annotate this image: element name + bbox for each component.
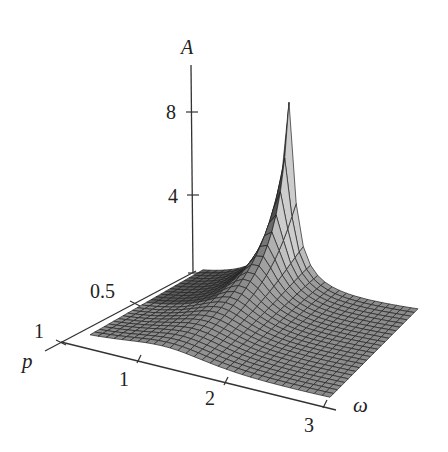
omega-tick-label-3: 3 xyxy=(304,414,314,436)
surface-mesh xyxy=(90,102,418,397)
omega-tick-label-1: 1 xyxy=(119,368,129,390)
p-tick-label-1: 1 xyxy=(34,320,44,342)
a-axis-line xyxy=(191,65,193,273)
omega-axis-label: ω xyxy=(353,393,368,417)
a-tick-label-8: 8 xyxy=(166,101,176,123)
p-axis-label: p xyxy=(20,349,33,373)
a-axis-label: A xyxy=(179,36,194,58)
surface-plot: A 8 4 0.5 1 p 1 2 3 ω xyxy=(0,0,448,452)
a-tick-label-4: 4 xyxy=(168,185,178,207)
p-tick-label-05: 0.5 xyxy=(90,280,115,302)
omega-tick-label-2: 2 xyxy=(205,387,215,409)
